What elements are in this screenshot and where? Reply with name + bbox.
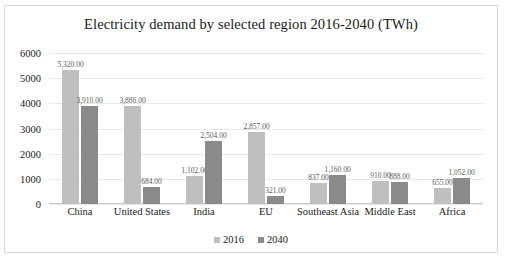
bar-group: 2,857.00321.00 — [235, 53, 297, 204]
bar-group: 3,886.00684.00 — [111, 53, 173, 204]
bar-group-bars: 655.001,052.00 — [421, 53, 483, 204]
legend-item[interactable]: 2016 — [214, 234, 244, 245]
x-axis-tick-label: China — [49, 206, 111, 217]
x-axis: ChinaUnited StatesIndiaEUSoutheast AsiaM… — [49, 206, 483, 217]
bar[interactable]: 5,320.00 — [62, 70, 79, 204]
bar[interactable]: 837.00 — [310, 183, 327, 204]
bar-group-bars: 2,857.00321.00 — [235, 53, 297, 204]
bar[interactable]: 1,160.00 — [329, 175, 346, 204]
y-axis-tick-label: 4000 — [20, 98, 41, 109]
bar-value-label: 910.00 — [370, 171, 391, 180]
bar-value-label: 2,857.00 — [243, 122, 269, 131]
bar-groups: 5,320.003,910.003,886.00684.001,102.002,… — [49, 53, 483, 204]
bar-value-label: 1,052.00 — [448, 168, 474, 177]
bar-group: 837.001,160.00 — [297, 53, 359, 204]
bar-value-label: 888.00 — [389, 172, 410, 181]
y-axis-tick-label: 0 — [36, 199, 41, 210]
bar-value-label: 5,320.00 — [57, 60, 83, 69]
bar[interactable]: 888.00 — [391, 182, 408, 204]
bar[interactable]: 1,052.00 — [453, 178, 470, 204]
gridline — [49, 204, 483, 205]
bar-group: 1,102.002,504.00 — [173, 53, 235, 204]
bar-group-bars: 5,320.003,910.00 — [49, 53, 111, 204]
x-axis-tick-label: India — [173, 206, 235, 217]
bar-group: 910.00888.00 — [359, 53, 421, 204]
x-axis-tick-label: EU — [235, 206, 297, 217]
bar-group-bars: 1,102.002,504.00 — [173, 53, 235, 204]
legend-label: 2016 — [223, 234, 244, 245]
y-axis-tick-label: 1000 — [20, 173, 41, 184]
chart-container: Electricity demand by selected region 20… — [4, 5, 498, 253]
bar[interactable]: 2,857.00 — [248, 132, 265, 204]
bar-value-label: 3,886.00 — [119, 96, 145, 105]
legend-swatch-icon — [258, 237, 264, 243]
x-axis-tick-label: Southeast Asia — [297, 206, 359, 217]
legend-label: 2040 — [267, 234, 288, 245]
bar-value-label: 655.00 — [432, 178, 453, 187]
bar-group: 5,320.003,910.00 — [49, 53, 111, 204]
x-axis-tick-label: Middle East — [359, 206, 421, 217]
x-axis-tick-label: Africa — [421, 206, 483, 217]
bar-value-label: 3,910.00 — [76, 96, 102, 105]
bar-group: 655.001,052.00 — [421, 53, 483, 204]
y-axis-tick-label: 2000 — [20, 148, 41, 159]
x-axis-tick-label: United States — [111, 206, 173, 217]
bar[interactable]: 3,910.00 — [81, 106, 98, 204]
bar-value-label: 1,160.00 — [324, 165, 350, 174]
bar[interactable]: 2,504.00 — [205, 141, 222, 204]
y-axis-tick-label: 5000 — [20, 73, 41, 84]
chart-legend: 20162040 — [5, 234, 497, 245]
bar-value-label: 837.00 — [308, 173, 329, 182]
y-axis-tick-label: 3000 — [20, 123, 41, 134]
y-axis-tick-label: 6000 — [20, 48, 41, 59]
bar[interactable]: 321.00 — [267, 196, 284, 204]
legend-item[interactable]: 2040 — [258, 234, 288, 245]
bar[interactable]: 684.00 — [143, 187, 160, 204]
bar-value-label: 321.00 — [265, 186, 286, 195]
y-axis: 6000500040003000200010000 — [5, 53, 45, 204]
bar[interactable]: 3,886.00 — [124, 106, 141, 204]
bar-group-bars: 910.00888.00 — [359, 53, 421, 204]
bar-value-label: 2,504.00 — [200, 131, 226, 140]
bar[interactable]: 655.00 — [434, 188, 451, 204]
legend-swatch-icon — [214, 237, 220, 243]
bar-value-label: 1,102.00 — [181, 166, 207, 175]
plot-area: 5,320.003,910.003,886.00684.001,102.002,… — [49, 53, 483, 204]
bar-group-bars: 3,886.00684.00 — [111, 53, 173, 204]
chart-title: Electricity demand by selected region 20… — [5, 16, 497, 33]
bar[interactable]: 910.00 — [372, 181, 389, 204]
bar-value-label: 684.00 — [141, 177, 162, 186]
bar-group-bars: 837.001,160.00 — [297, 53, 359, 204]
bar[interactable]: 1,102.00 — [186, 176, 203, 204]
